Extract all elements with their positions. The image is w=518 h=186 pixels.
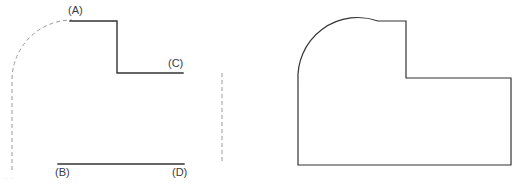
solid-outline-shape: [298, 18, 511, 165]
construction-arc-dashed: [12, 20, 72, 170]
point-label-c: (C): [168, 57, 183, 69]
point-label-a: (A): [68, 4, 83, 16]
scan-artifact-text: -- -: [3, 175, 13, 181]
point-label-b: (B): [55, 166, 70, 178]
stepped-profile-line: [70, 21, 183, 73]
left-view-group: [12, 20, 222, 170]
point-label-d: (D): [172, 166, 187, 178]
engineering-drawing-canvas: [0, 0, 518, 186]
right-view-group: [298, 18, 511, 165]
